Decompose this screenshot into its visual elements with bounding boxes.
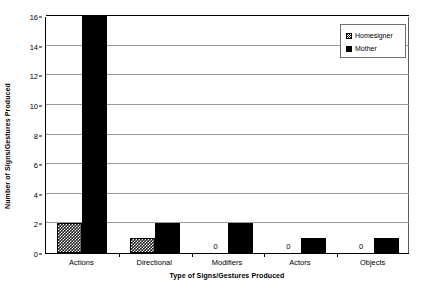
x-tick-label-directional: Directional <box>136 258 171 267</box>
y-tick-label: 10 <box>30 101 38 110</box>
y-tick-label: 2 <box>34 220 38 229</box>
legend-item-homesigner[interactable]: Homesigner <box>346 29 405 42</box>
bar-mother-actors <box>301 238 326 253</box>
legend-item-mother[interactable]: Mother <box>346 42 405 55</box>
y-tick-mark <box>39 46 42 47</box>
y-tick-label: 16 <box>30 13 38 22</box>
y-tick-mark <box>39 76 42 77</box>
legend-item-label: Mother <box>355 45 377 52</box>
bar-homesigner-actions <box>57 223 82 253</box>
y-tick-label: 4 <box>34 190 38 199</box>
value-label-zero: 0 <box>359 242 363 251</box>
y-tick-mark <box>39 254 42 255</box>
x-tick-label-modifiers: Modifiers <box>212 258 242 267</box>
y-tick-mark <box>39 135 42 136</box>
value-label-zero: 0 <box>286 242 290 251</box>
x-axis-tick-labels: ActionsDirectionalModifiersActorsObjects <box>45 258 409 270</box>
plot-right-edge <box>408 17 409 253</box>
y-tick-mark <box>39 105 42 106</box>
x-tick-label-objects: Objects <box>360 258 385 267</box>
bar-mother-actions <box>82 16 107 253</box>
x-tick-mark <box>119 253 120 257</box>
chart-legend: HomesignerMother <box>340 24 406 58</box>
y-tick-label: 6 <box>34 161 38 170</box>
bar-mother-objects <box>374 238 399 253</box>
y-tick-mark <box>39 194 42 195</box>
x-tick-mark <box>337 253 338 257</box>
y-tick-mark <box>39 165 42 166</box>
y-tick-label: 0 <box>34 250 38 259</box>
y-axis-title: Number of Signs/Gestures Produced <box>0 0 14 292</box>
chart-figure: Number of Signs/Gestures Produced 024681… <box>0 0 424 292</box>
x-tick-label-actors: Actors <box>289 258 310 267</box>
y-tick-label: 8 <box>34 131 38 140</box>
x-tick-mark <box>264 253 265 257</box>
y-tick-mark <box>39 17 42 18</box>
x-axis-title: Type of Signs/Gestures Produced <box>45 272 409 279</box>
y-tick-label: 12 <box>30 72 38 81</box>
x-tick-label-actions: Actions <box>69 258 94 267</box>
legend-swatch-icon <box>346 46 352 52</box>
legend-item-label: Homesigner <box>355 32 393 39</box>
legend-swatch-icon <box>346 33 352 39</box>
y-tick-label: 14 <box>30 42 38 51</box>
x-tick-mark <box>192 253 193 257</box>
bar-mother-directional <box>155 223 180 253</box>
y-tick-mark <box>39 224 42 225</box>
bar-mother-modifiers <box>228 223 253 253</box>
y-axis-tick-labels: 0246810121416 <box>18 17 42 254</box>
value-label-zero: 0 <box>213 242 217 251</box>
bar-homesigner-directional <box>130 238 155 253</box>
